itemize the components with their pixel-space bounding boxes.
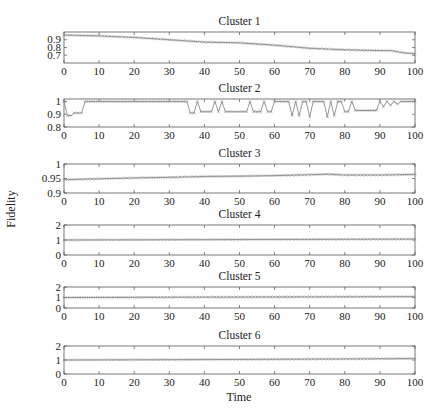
x-tick-label: 60: [269, 129, 281, 141]
x-tick-label: 100: [407, 65, 424, 77]
x-axis-label: Time: [227, 390, 252, 404]
x-tick-label: 30: [164, 195, 176, 207]
data-line: [64, 102, 415, 117]
x-tick-label: 60: [269, 195, 281, 207]
subplot-title: Cluster 5: [219, 270, 261, 282]
x-tick-label: 40: [199, 310, 211, 322]
figure-canvas: Cluster 101020304050607080901000.70.80.9…: [0, 0, 447, 418]
x-tick-label: 70: [304, 376, 316, 388]
y-tick-label: 2: [56, 281, 62, 293]
x-tick-label: 100: [407, 129, 424, 141]
x-tick-label: 100: [407, 310, 424, 322]
x-tick-label: 80: [339, 195, 351, 207]
y-tick-label: 0.9: [47, 187, 61, 199]
x-tick-label: 90: [374, 129, 386, 141]
x-tick-label: 0: [61, 65, 67, 77]
x-tick-label: 60: [269, 65, 281, 77]
y-tick-label: 0.9: [47, 33, 61, 45]
x-tick-label: 20: [129, 65, 141, 77]
x-tick-label: 80: [339, 310, 351, 322]
x-tick-label: 40: [199, 376, 211, 388]
y-axis-label: Fidelity: [4, 190, 18, 227]
x-tick-label: 0: [61, 129, 67, 141]
x-tick-label: 30: [164, 376, 176, 388]
x-tick-label: 30: [164, 257, 176, 269]
y-tick-label: 0.9: [47, 108, 61, 120]
x-tick-label: 70: [304, 257, 316, 269]
x-tick-label: 80: [339, 376, 351, 388]
y-tick-label: 0: [56, 368, 62, 380]
y-tick-label: 1: [56, 354, 62, 366]
x-tick-label: 20: [129, 195, 141, 207]
y-tick-label: 1: [56, 95, 62, 107]
x-tick-label: 60: [269, 376, 281, 388]
x-tick-label: 30: [164, 65, 176, 77]
x-tick-label: 90: [374, 310, 386, 322]
subplot-title: Cluster 4: [219, 208, 261, 220]
x-tick-label: 30: [164, 310, 176, 322]
x-tick-label: 70: [304, 129, 316, 141]
y-tick-label: 2: [56, 219, 62, 231]
data-markers: [63, 357, 417, 361]
subplot-title: Cluster 2: [219, 82, 261, 94]
x-tick-label: 20: [129, 310, 141, 322]
x-tick-label: 0: [61, 195, 67, 207]
x-tick-label: 90: [374, 257, 386, 269]
y-tick-label: 1: [56, 234, 62, 246]
x-tick-label: 10: [94, 129, 106, 141]
y-tick-label: 0.95: [42, 172, 62, 184]
x-tick-label: 10: [94, 310, 106, 322]
y-tick-label: 2: [56, 340, 62, 352]
subplot-title: Cluster 1: [219, 15, 261, 27]
y-tick-label: 0: [56, 302, 62, 314]
y-tick-label: 1: [56, 291, 62, 303]
x-tick-label: 90: [374, 195, 386, 207]
subplot-title: Cluster 3: [219, 147, 261, 159]
x-tick-label: 60: [269, 310, 281, 322]
x-tick-label: 40: [199, 129, 211, 141]
subplot-cluster-2: Cluster 201020304050607080901000.80.91: [47, 82, 424, 141]
x-tick-label: 0: [61, 257, 67, 269]
x-tick-label: 50: [234, 310, 246, 322]
x-tick-label: 80: [339, 129, 351, 141]
x-tick-label: 70: [304, 310, 316, 322]
x-tick-label: 40: [199, 65, 211, 77]
data-markers: [63, 173, 417, 181]
x-tick-label: 50: [234, 129, 246, 141]
x-tick-label: 50: [234, 376, 246, 388]
x-tick-label: 50: [234, 257, 246, 269]
subplot-title: Cluster 6: [219, 329, 261, 341]
x-tick-label: 10: [94, 65, 106, 77]
x-tick-label: 0: [61, 376, 67, 388]
subplot-cluster-5: Cluster 50102030405060708090100012: [56, 270, 424, 322]
x-tick-label: 10: [94, 376, 106, 388]
x-tick-label: 20: [129, 129, 141, 141]
x-tick-label: 70: [304, 65, 316, 77]
x-tick-label: 80: [339, 257, 351, 269]
x-tick-label: 60: [269, 257, 281, 269]
x-tick-label: 90: [374, 376, 386, 388]
y-tick-label: 0.8: [47, 121, 61, 133]
x-tick-label: 100: [407, 257, 424, 269]
x-tick-label: 40: [199, 195, 211, 207]
y-tick-label: 1: [56, 158, 62, 170]
subplot-cluster-6: Cluster 60102030405060708090100012: [56, 329, 424, 388]
x-tick-label: 30: [164, 129, 176, 141]
x-tick-label: 70: [304, 195, 316, 207]
data-line: [64, 35, 415, 54]
x-tick-label: 20: [129, 257, 141, 269]
x-tick-label: 0: [61, 310, 67, 322]
x-tick-label: 40: [199, 257, 211, 269]
x-tick-label: 90: [374, 65, 386, 77]
x-tick-label: 50: [234, 65, 246, 77]
x-tick-label: 10: [94, 195, 106, 207]
x-tick-label: 100: [407, 376, 424, 388]
x-tick-label: 80: [339, 65, 351, 77]
x-tick-label: 50: [234, 195, 246, 207]
subplot-cluster-1: Cluster 101020304050607080901000.70.80.9: [47, 15, 424, 77]
y-tick-label: 0: [56, 249, 62, 261]
x-tick-label: 20: [129, 376, 141, 388]
axes-frame: [64, 99, 415, 127]
subplot-cluster-4: Cluster 40102030405060708090100012: [56, 208, 424, 269]
x-tick-label: 10: [94, 257, 106, 269]
